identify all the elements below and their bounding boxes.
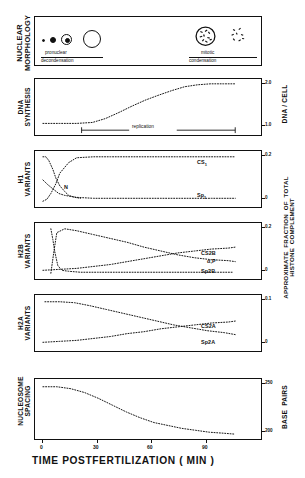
n-curve-label: N — [64, 184, 68, 190]
nucleosome-spacing-axis-label: NUCLEOSOMESPACING — [18, 362, 32, 440]
cs1-curve-label: CS1 — [197, 159, 207, 167]
nuclear-morphology-axis-label: NUCLEARMORPHOLOGY — [16, 12, 31, 74]
n-curve — [43, 157, 81, 199]
sp2b-curve-label: Sp2B — [201, 268, 215, 274]
h2a-variants-plot — [35, 295, 261, 351]
h1-tick-high: 0.2 — [265, 152, 271, 157]
dna-tickmark-2 — [262, 83, 265, 84]
h1-variants-axis-label: H1VARIANTS — [18, 146, 32, 212]
cs2b-curve-label: CS2B — [201, 250, 216, 256]
h1-tickmark-high — [262, 155, 265, 156]
cs2a-curve-label: CS2A — [201, 323, 216, 329]
h2b-tickmark-zero — [262, 270, 265, 271]
h1-variants-plot — [35, 151, 261, 207]
xtick-90 — [206, 440, 207, 443]
dna-tick-1: 1.0 — [265, 122, 271, 127]
h2b-variants-plot — [35, 223, 261, 279]
h2a-tickmark-zero — [262, 342, 265, 343]
bp-tickmark-250 — [262, 383, 265, 384]
sp1-label-sub: 1 — [204, 195, 206, 200]
panel-h2b-variants: CS2B α,P Sp2B — [34, 222, 262, 280]
dna-per-cell-axis-label: DNA / CELL — [282, 75, 289, 133]
h2b-variants-axis-label: H2BVARIANTS — [18, 218, 32, 284]
xtick-label-0: 0 — [40, 444, 43, 450]
xtick-0 — [42, 440, 43, 443]
xtick-label-90: 90 — [202, 444, 208, 450]
nucleosome-spacing-plot — [35, 379, 261, 439]
cs1-label-text: CS — [197, 159, 205, 165]
dna-tickmark-1 — [262, 125, 265, 126]
cs2a-curve — [45, 302, 235, 335]
sp2a-curve-label: Sp2A — [201, 339, 215, 345]
panel-dna-synthesis: replication — [34, 78, 262, 136]
figure-root: NUCLEARMORPHOLOGY pronuclear decondensat… — [0, 0, 305, 478]
histone-complement-axis-label: APPROXIMATE FRACTION OF TOTALHISTONE COM… — [283, 145, 296, 330]
h2b-tick-high: 0.2 — [265, 224, 271, 229]
dna-tick-2: 2.0 — [265, 80, 271, 85]
panel-nucleosome-spacing — [34, 378, 262, 440]
bp-tick-250: 250 — [265, 380, 272, 385]
sp1-curve-label: Sp1 — [197, 192, 206, 200]
h1-tick-zero: 0 — [265, 195, 267, 200]
h1-tickmark-zero — [262, 198, 265, 199]
xtick-60 — [151, 440, 152, 443]
cs1-label-sub: 1 — [205, 162, 207, 167]
panel-h1-variants: CS1 Sp1 N — [34, 150, 262, 208]
alpha-p-curve-label: α,P — [207, 258, 216, 264]
mitotic-caption: mitotic — [201, 50, 214, 55]
h2b-tick-zero: 0 — [265, 267, 267, 272]
xtick-label-60: 60 — [147, 444, 153, 450]
h2a-tickmark-high — [262, 299, 265, 300]
bp-tick-200: 200 — [265, 428, 272, 433]
xtick-label-30: 30 — [93, 444, 99, 450]
condensation-caption: condensation — [189, 58, 216, 63]
h2a-variants-axis-label: H2AVARIANTS — [18, 290, 32, 356]
x-axis-title: TIME POSTFERTILIZATION ( MIN ) — [32, 455, 215, 466]
panel-h2a-variants: CS2A Sp2A — [34, 294, 262, 352]
h2a-tick-zero: 0 — [265, 339, 267, 344]
h2b-tickmark-high — [262, 227, 265, 228]
panel-nuclear-morphology: pronuclear decondensation — [34, 16, 262, 66]
dna-synthesis-axis-label: DNASYNTHESIS — [18, 74, 32, 140]
nucleosome-repeat-curve — [43, 387, 235, 434]
xtick-30 — [97, 440, 98, 443]
base-pairs-axis-label: BASE PAIRS — [282, 376, 289, 438]
replication-annotation: replication — [132, 124, 154, 129]
bp-tickmark-200 — [262, 431, 265, 432]
h2a-tick-high: 0.1 — [265, 296, 271, 301]
dna-per-cell-curve — [43, 84, 235, 124]
